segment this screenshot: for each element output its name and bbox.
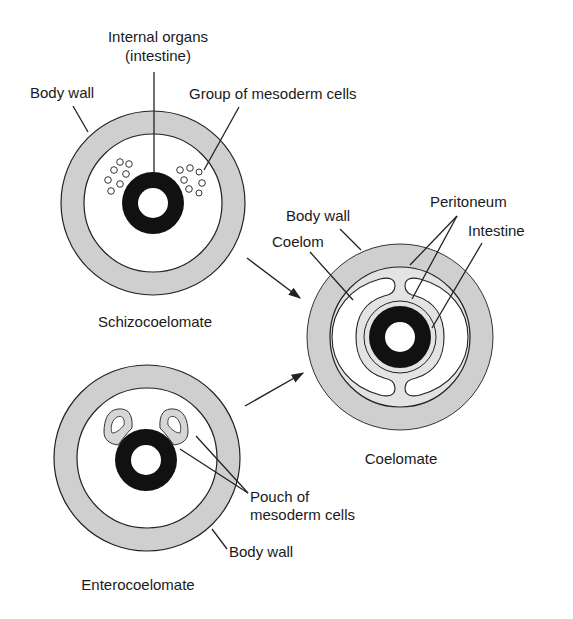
label-intestine-paren: (intestine) bbox=[125, 47, 191, 64]
label-intestine: Intestine bbox=[468, 222, 525, 239]
coelomate-figure: Body wall Coelom Peritoneum Intestine Co… bbox=[272, 193, 525, 467]
arrow-entero-to-coelomate bbox=[245, 373, 303, 406]
label-body-wall: Body wall bbox=[286, 207, 350, 224]
title-coelomate: Coelomate bbox=[365, 450, 438, 467]
label-coelom: Coelom bbox=[272, 233, 324, 250]
title-enterocoelomate: Enterocoelomate bbox=[81, 576, 194, 593]
intestine-lumen bbox=[385, 322, 415, 352]
arrow-schizo-to-coelomate bbox=[247, 258, 300, 298]
coelom-formation-diagram: Internal organs (intestine) Body wall Gr… bbox=[0, 0, 573, 619]
intestine-lumen bbox=[131, 445, 161, 475]
leader-body-wall bbox=[340, 229, 361, 250]
label-body-wall: Body wall bbox=[229, 543, 293, 560]
label-body-wall: Body wall bbox=[30, 84, 94, 101]
leader-body-wall bbox=[73, 106, 88, 132]
label-mesoderm-group: Group of mesoderm cells bbox=[189, 85, 357, 102]
title-schizocoelomate: Schizocoelomate bbox=[98, 313, 212, 330]
label-internal-organs: Internal organs bbox=[108, 28, 208, 45]
leader-body-wall bbox=[212, 529, 227, 549]
label-peritoneum: Peritoneum bbox=[430, 193, 507, 210]
enterocoelomate-figure: Pouch of mesoderm cells Body wall Entero… bbox=[54, 365, 355, 593]
label-pouch-line2: mesoderm cells bbox=[250, 506, 355, 523]
intestine-lumen bbox=[138, 188, 168, 218]
label-pouch-line1: Pouch of bbox=[250, 488, 310, 505]
schizocoelomate-figure: Internal organs (intestine) Body wall Gr… bbox=[30, 28, 357, 330]
